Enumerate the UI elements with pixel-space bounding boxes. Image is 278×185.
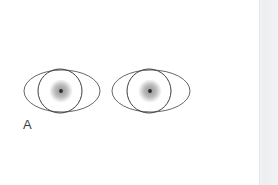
left-eye-pupil <box>59 89 63 93</box>
right-eye-group <box>112 69 190 113</box>
eyes-diagram <box>0 0 278 185</box>
right-eye-pupil <box>148 89 152 93</box>
panel-label: A <box>23 118 32 131</box>
scan-edge-strip <box>259 0 278 185</box>
left-eye-group <box>24 69 100 113</box>
figure-panel: A <box>0 0 278 185</box>
